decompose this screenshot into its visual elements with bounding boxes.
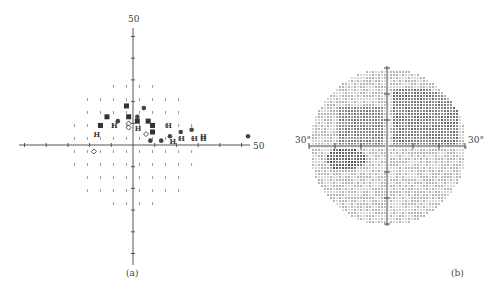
left-degree-label: 30° (295, 135, 311, 145)
svg-text:H: H (165, 121, 172, 130)
svg-text:H: H (178, 134, 185, 143)
y-axis-top-label: 50 (128, 14, 139, 24)
right-degree-label: 30° (468, 135, 484, 145)
panel-b-field-map: 30° 30° (b) (290, 20, 490, 270)
x-axis-right-label: 50 (253, 141, 264, 151)
svg-text:H: H (135, 124, 142, 133)
scatter-plot: HHHHHHHHH (0, 0, 260, 292)
panel-a-scatter: HHHHHHHHH 50 50 (a) (0, 0, 260, 292)
caption-b: (b) (451, 268, 464, 278)
svg-text:H: H (191, 134, 198, 143)
svg-text:H: H (94, 130, 101, 139)
visual-field-map (290, 20, 490, 270)
svg-text:H: H (200, 132, 207, 141)
caption-a: (a) (126, 268, 138, 278)
